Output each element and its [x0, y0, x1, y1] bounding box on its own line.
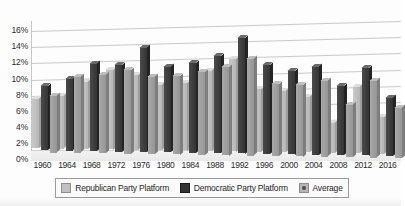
bar-democratic: [90, 63, 97, 151]
bar-face: [140, 47, 147, 152]
bar-group: [156, 4, 181, 154]
y-tick-label: 6%: [16, 107, 28, 116]
y-tick-label: 8%: [16, 91, 28, 100]
bar-democratic: [362, 68, 369, 156]
bar-side: [279, 82, 282, 157]
y-tick-label: 12%: [12, 58, 28, 67]
bar-face: [321, 80, 328, 156]
legend-label-average: Average: [313, 183, 343, 193]
scan-artifact: [0, 198, 401, 206]
bar-average: [247, 58, 254, 155]
legend-item-democratic[interactable]: Democratic Party Platform: [180, 183, 288, 193]
bar-side: [131, 68, 134, 154]
x-tick-label: 1972: [104, 160, 129, 170]
x-tick-label: 1988: [203, 160, 228, 170]
x-tick-label: 1984: [178, 160, 203, 170]
bar-face: [346, 104, 353, 157]
bar-democratic: [214, 56, 221, 153]
bar-group: [131, 4, 156, 154]
bar-democratic: [140, 47, 147, 152]
bar-democratic: [288, 71, 295, 155]
bar-face: [386, 97, 393, 156]
y-tick-label: 4%: [16, 123, 28, 132]
bar-group: [181, 5, 206, 155]
bar-average: [173, 76, 180, 155]
bar-side: [353, 102, 356, 157]
bar-group: [205, 5, 230, 155]
bar-side: [106, 72, 109, 153]
bar-average: [370, 80, 377, 157]
x-tick-label: 1980: [153, 160, 178, 170]
bar-group: [82, 3, 107, 153]
bar-average: [148, 76, 155, 154]
bar-side: [328, 78, 331, 157]
x-tick-label: 1964: [55, 160, 80, 170]
bar-face: [32, 98, 39, 148]
bar-face: [50, 95, 57, 152]
bar-average: [272, 84, 279, 156]
bar-average: [74, 76, 81, 152]
x-tick-label: 2012: [351, 160, 376, 170]
bar-average: [321, 80, 328, 156]
bar-face: [337, 86, 344, 155]
bar-group: [33, 3, 58, 153]
bar-average: [296, 85, 303, 157]
bar-face: [124, 70, 131, 154]
bar-face: [173, 76, 180, 155]
bar-group: [329, 7, 354, 157]
y-tick-label: 0%: [16, 155, 28, 164]
bar-group: [107, 4, 132, 154]
bar-democratic: [386, 97, 393, 156]
bar-democratic: [41, 86, 48, 150]
legend-item-republican[interactable]: Republican Party Platform: [61, 183, 169, 193]
x-tick-label: 2004: [301, 160, 326, 170]
bar-face: [362, 68, 369, 156]
bar-face: [272, 84, 279, 156]
bar-average: [346, 104, 353, 157]
bar-face: [263, 65, 270, 154]
bar-side: [303, 83, 306, 157]
x-tick-label: 1968: [79, 160, 104, 170]
legend-label-democratic: Democratic Party Platform: [194, 183, 288, 193]
y-tick-label: 2%: [16, 139, 28, 148]
bar-side: [205, 70, 208, 155]
bar-side: [229, 65, 232, 156]
bar-groups: [31, 0, 401, 166]
bar-group: [255, 6, 280, 156]
bar-face: [66, 78, 73, 150]
bar-face: [214, 56, 221, 153]
bar-face: [41, 86, 48, 150]
bar-group: [230, 6, 255, 156]
bar-average: [198, 72, 205, 155]
bar-side: [180, 73, 183, 154]
bar-face: [189, 63, 196, 153]
bar-face: [74, 76, 81, 152]
bar-group: [378, 8, 403, 158]
bar-average: [222, 67, 229, 156]
bar-democratic: [189, 63, 196, 153]
x-tick-label: 1992: [227, 160, 252, 170]
x-tick-label: 2000: [277, 160, 302, 170]
bar-face: [198, 72, 205, 155]
legend-item-average[interactable]: Average: [299, 183, 343, 193]
bar-democratic: [238, 38, 245, 154]
bar-side: [402, 105, 405, 158]
y-tick-label: 10%: [12, 75, 28, 84]
x-tick-label: 1996: [252, 160, 277, 170]
avg-swatch-icon: [299, 183, 309, 193]
bar-group: [304, 7, 329, 157]
bar-face: [115, 65, 122, 152]
x-tick-label: 1960: [30, 160, 55, 170]
y-tick-label: 14%: [12, 42, 28, 51]
bar-face: [99, 74, 106, 153]
bar-face: [247, 58, 254, 155]
bar-face: [90, 63, 97, 151]
bar-republican: [32, 98, 39, 148]
bar-democratic: [263, 65, 270, 154]
bar-face: [148, 76, 155, 154]
bar-average: [50, 95, 57, 152]
bar-face: [312, 66, 319, 155]
bar-democratic: [66, 78, 73, 150]
bar-side: [377, 78, 380, 157]
